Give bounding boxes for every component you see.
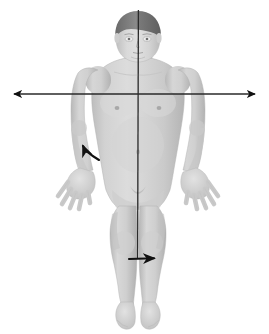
elbow-right [189, 120, 205, 136]
foot-right [141, 302, 161, 329]
anatomy-diagram-svg [0, 0, 269, 334]
chest-shading-left [100, 89, 136, 117]
pupil-left [128, 38, 131, 41]
nipple-right [157, 106, 162, 110]
anatomy-figure-container [0, 0, 269, 334]
nipple-left [115, 106, 120, 110]
pupil-right [146, 38, 149, 41]
elbow-left [71, 120, 87, 136]
chest-shading-right [140, 89, 176, 117]
foot-left [116, 302, 136, 329]
vertical-axis [138, 10, 139, 258]
leg-rotation-arrow [129, 258, 154, 259]
ear-right [156, 33, 161, 43]
ear-left [114, 33, 119, 43]
